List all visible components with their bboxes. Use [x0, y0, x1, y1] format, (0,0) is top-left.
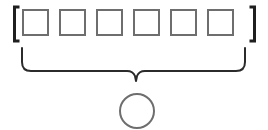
cell-1[interactable]	[23, 10, 48, 35]
cell-5[interactable]	[171, 10, 196, 35]
cell-3[interactable]	[97, 10, 122, 35]
cell-2[interactable]	[60, 10, 85, 35]
result-circle[interactable]	[120, 94, 154, 128]
cell-4[interactable]	[134, 10, 159, 35]
cell-6[interactable]	[208, 10, 233, 35]
sequence-reduction-diagram	[0, 0, 268, 130]
close-bracket-icon	[250, 7, 255, 41]
cell-row	[23, 10, 233, 35]
underbrace-icon	[22, 48, 245, 81]
open-bracket-icon	[15, 7, 20, 41]
diagram-canvas: [ ]	[0, 0, 268, 130]
